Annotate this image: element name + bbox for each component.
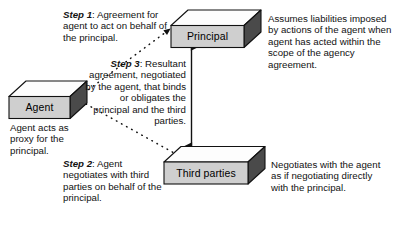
node-principal-label: Principal xyxy=(171,26,244,48)
step-3-prefix: Step 3 xyxy=(111,58,140,69)
agent-annotation: Agent acts as proxy for the principal. xyxy=(10,122,94,156)
node-agent[interactable]: Agent xyxy=(8,80,88,120)
node-agent-label: Agent xyxy=(9,97,70,119)
node-principal[interactable]: Principal xyxy=(170,9,262,49)
step-1-prefix: Step 1 xyxy=(63,9,92,20)
principal-annotation: Assumes liabilities imposed by actions o… xyxy=(268,13,394,70)
third-parties-annotation: Negotiates with the agent as if negotiat… xyxy=(271,159,391,193)
step-2-caption: Step 2: Agent negotiates with third part… xyxy=(63,158,163,204)
step-3-caption: Step 3: Resultant agreement, negotiated … xyxy=(84,58,186,126)
step-2-prefix: Step 2 xyxy=(63,158,92,169)
node-third-parties-label: Third parties xyxy=(164,162,248,184)
node-third-parties[interactable]: Third parties xyxy=(163,145,266,186)
agency-relationship-diagram: Principal Agent Third parties Step 1: Ag… xyxy=(0,0,395,230)
step-1-caption: Step 1: Agreement for agent to act on be… xyxy=(63,9,168,43)
